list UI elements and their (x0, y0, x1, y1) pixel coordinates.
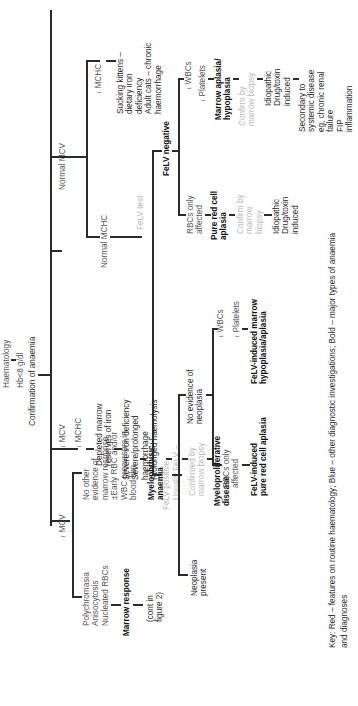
usually-felv-negative: Usually FeLV – (172, 445, 181, 500)
connector (11, 359, 16, 361)
connector (50, 448, 78, 450)
cell-lines-split (212, 330, 214, 466)
connector (106, 60, 116, 62)
felv-neg-confirm-biopsy: Confirm by marrow biopsy (236, 194, 264, 234)
arrow-down-icon: ↓ (184, 87, 193, 91)
felv-positive-label: FeLV positive (162, 461, 171, 510)
connector (50, 156, 86, 158)
connector (152, 474, 162, 476)
connector (229, 214, 235, 216)
felv-test-label: FeLV test (136, 196, 145, 230)
felv-induced-pure-red-cell-aplasia: FeLV-induced pure red cell aplasia (250, 417, 269, 496)
increased-mcv-split (72, 474, 74, 598)
connector (152, 150, 162, 152)
felv-neg-split (178, 80, 180, 216)
normal-mcv-split (86, 62, 88, 238)
cont-figure-2: (cont in figure 2) (146, 592, 165, 622)
connector (242, 328, 248, 330)
connector (86, 448, 94, 450)
felv-neg-rbcs-causes: Idiopathic Drug/toxin induced (272, 197, 300, 234)
normal-mchc-label: Normal MCHC (100, 215, 109, 268)
connector (72, 596, 82, 598)
arrow-down-icon: ↓ (216, 335, 225, 339)
felv-negative-label: FeLV negative (162, 121, 171, 176)
marrow-aplasia-hypoplasia: Marrow aplasia/ hypoplasia (214, 59, 233, 120)
confirmation-label: Confirmation of anaemia (28, 337, 37, 426)
arrow-down-connector (133, 604, 143, 606)
pure-red-cell-aplasia: Pure red cell aplasia (210, 191, 229, 240)
hb-threshold-label: Hb<8 g/dl (16, 353, 25, 388)
no-evidence-of-neoplasia: No evidence of neoplasia (186, 369, 205, 424)
arrow-down-icon: ↓ (232, 335, 241, 339)
felv-pos-wbcs: ↓WBCs (216, 309, 225, 338)
connector (257, 78, 263, 80)
decreased-mchc-normal-mcv: ↓MCHC (94, 64, 103, 94)
arrow-down-icon: ↓ (94, 91, 103, 95)
connector (50, 250, 62, 252)
arrow-down-icon: ↓ (58, 445, 67, 449)
connector (178, 394, 186, 396)
depleted-iron-reserves: Depleted marrow reserves of iron (95, 404, 114, 466)
decreased-mchc-label: ↓MCHC (74, 418, 83, 448)
felv-neg-marrow-causes: Idiopathic Drug/toxin induced (264, 69, 292, 106)
connector (264, 214, 272, 216)
connector (86, 236, 100, 238)
haematology-label: Haematology (2, 340, 11, 388)
felv-neg-platelets: ↓Platelets (198, 65, 207, 102)
connector (172, 474, 182, 476)
neoplasia-present: Neoplasia present (190, 560, 209, 596)
key-line-2: and diagnoses (340, 595, 349, 648)
marrow-response-outcome: Marrow response (122, 568, 131, 636)
normal-mcv-label: Normal MCV (58, 143, 67, 190)
neoplasia-split (178, 396, 180, 576)
iron-deficiency-causes: Sucking kittens – dietary iron deficienc… (116, 43, 163, 114)
secondary-systemic-disease: Secondary to systemic disease eg, chroni… (298, 70, 354, 132)
felv-split (152, 152, 154, 476)
connector (178, 214, 186, 216)
key-line-1: Key: Red – features on routine haematolo… (328, 233, 337, 648)
connector (72, 472, 82, 474)
connector (38, 374, 50, 376)
iron-deficiency-conditions: Severe iron deficiency Severe/prolonged … (122, 399, 160, 480)
connector (111, 604, 121, 606)
connector (242, 464, 250, 466)
felv-neg-marrow-confirm: Confirm by marrow biopsy (238, 73, 257, 126)
arrow-up-icon: ↑ (58, 535, 67, 539)
arrow-down-icon: ↓ (198, 99, 207, 103)
decreased-mcv-label: ↓MCV (58, 424, 67, 448)
connector (86, 60, 100, 62)
felv-induced-marrow-hypoplasia: FeLV-induced marrow hypoplasia/aplasia (250, 299, 269, 384)
felv-pos-rbcs-only: RBCs only affected (222, 449, 241, 488)
felv-pos-platelets: ↓Platelets (232, 301, 241, 338)
anaemia-diagnostic-flowchart: Haematology Hb<8 g/dl Confirmation of an… (0, 0, 358, 706)
connector (114, 448, 122, 450)
arrow-down-icon: ↓ (74, 445, 83, 449)
felv-neg-wbcs: ↓WBCs (184, 61, 193, 90)
marrow-response-features: Polychromasia Anisocytosis Nucleated RBC… (82, 565, 110, 626)
felv-neg-rbcs-only: RBCs only affected (186, 195, 205, 234)
confirmed-by-marrow-biopsy: Confirmed by marrow biopsy (188, 443, 207, 496)
connector (178, 574, 188, 576)
connector (110, 236, 142, 238)
increased-mcv-label: ↑MCV (58, 514, 67, 538)
connector (212, 464, 222, 466)
